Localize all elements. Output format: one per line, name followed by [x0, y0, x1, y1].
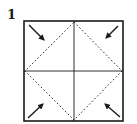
origami-diagram: [0, 0, 137, 124]
